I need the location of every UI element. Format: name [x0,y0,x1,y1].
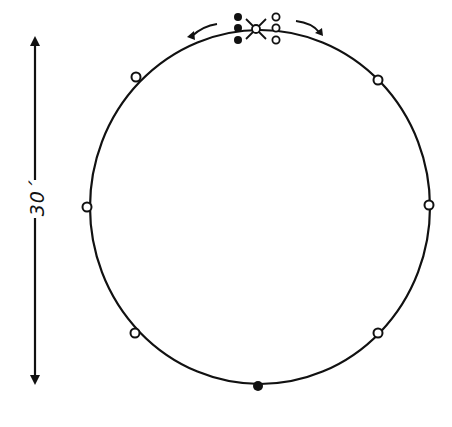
player-open-left [83,203,92,212]
player-open-right [425,201,434,210]
player-filled [234,13,242,21]
circle-formation-diagram [0,0,452,427]
player-open [272,36,279,43]
player-open-top-right [374,76,383,85]
curved-arrow-left-icon [192,24,217,36]
curved-arrow-right-icon [296,21,319,32]
player-open-bottom-left [131,329,140,338]
ring-players [83,73,434,392]
player-open-bottom-right [374,329,383,338]
dimension-label: 30´ [17,178,57,218]
player-open [272,24,279,31]
player-open-top-left [132,73,141,82]
arrow-up-icon [30,36,40,46]
player-filled [234,36,242,44]
player-filled-bottom [253,381,263,391]
player-open [272,13,279,20]
player-filled [234,24,242,32]
arrow-down-icon [30,375,40,385]
